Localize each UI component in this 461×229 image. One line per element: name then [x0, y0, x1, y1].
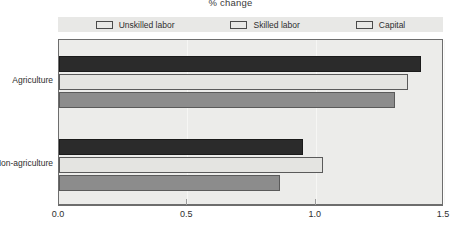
- plot-inner: [59, 40, 442, 204]
- bar-skilled-labor-non-agriculture: [59, 157, 323, 173]
- chart-legend: Unskilled labor Skilled labor Capital: [58, 17, 443, 32]
- legend-label-skilled-labor: Skilled labor: [253, 20, 299, 30]
- plot-area: [58, 39, 443, 205]
- bar-capital-agriculture: [59, 92, 395, 108]
- legend-label-capital: Capital: [379, 20, 405, 30]
- x-axis-tick: [315, 199, 316, 205]
- x-axis-tick-label: 1.5: [437, 209, 450, 219]
- x-axis-line: [58, 205, 443, 206]
- legend-item-skilled-labor: Skilled labor: [230, 20, 299, 30]
- bar-capital-non-agriculture: [59, 175, 280, 191]
- chart-container: % change Unskilled labor Skilled labor C…: [0, 0, 461, 229]
- legend-item-capital: Capital: [356, 20, 405, 30]
- x-axis-tick-label: 0.0: [52, 209, 65, 219]
- legend-label-unskilled-labor: Unskilled labor: [119, 20, 175, 30]
- gridline: [444, 40, 445, 204]
- chart-title: % change: [0, 0, 461, 8]
- legend-item-unskilled-labor: Unskilled labor: [96, 20, 175, 30]
- bar-skilled-labor-agriculture: [59, 74, 408, 90]
- legend-swatch-unskilled-labor: [96, 21, 113, 29]
- bar-unskilled-labor-non-agriculture: [59, 139, 303, 155]
- y-axis-label-agriculture: Agriculture: [12, 75, 53, 85]
- x-axis-tick-label: 0.5: [180, 209, 193, 219]
- legend-swatch-capital: [356, 21, 373, 29]
- y-axis-category-labels: Agriculture Non-agriculture: [0, 39, 53, 205]
- y-axis-label-non-agriculture: Non-agriculture: [0, 158, 53, 168]
- x-axis-tick-label: 1.0: [308, 209, 321, 219]
- x-axis-tick: [186, 199, 187, 205]
- bar-unskilled-labor-agriculture: [59, 56, 421, 72]
- legend-swatch-skilled-labor: [230, 21, 247, 29]
